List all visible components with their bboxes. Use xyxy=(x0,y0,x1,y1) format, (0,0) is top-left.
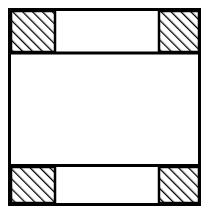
bottom-right-hatched-block xyxy=(159,167,199,203)
middle-open-rectangle xyxy=(11,55,199,165)
top-left-hatched-block xyxy=(11,11,55,52)
top-right-hatched-block xyxy=(159,11,199,52)
top-center-open-rectangle xyxy=(55,11,159,52)
hatched-frame-diagram: Square frame with hatched corner blocks … xyxy=(0,0,208,214)
figure-container: Square frame with hatched corner blocks … xyxy=(0,0,208,214)
bottom-center-open-rectangle xyxy=(55,167,159,203)
bottom-left-hatched-block xyxy=(11,167,55,203)
